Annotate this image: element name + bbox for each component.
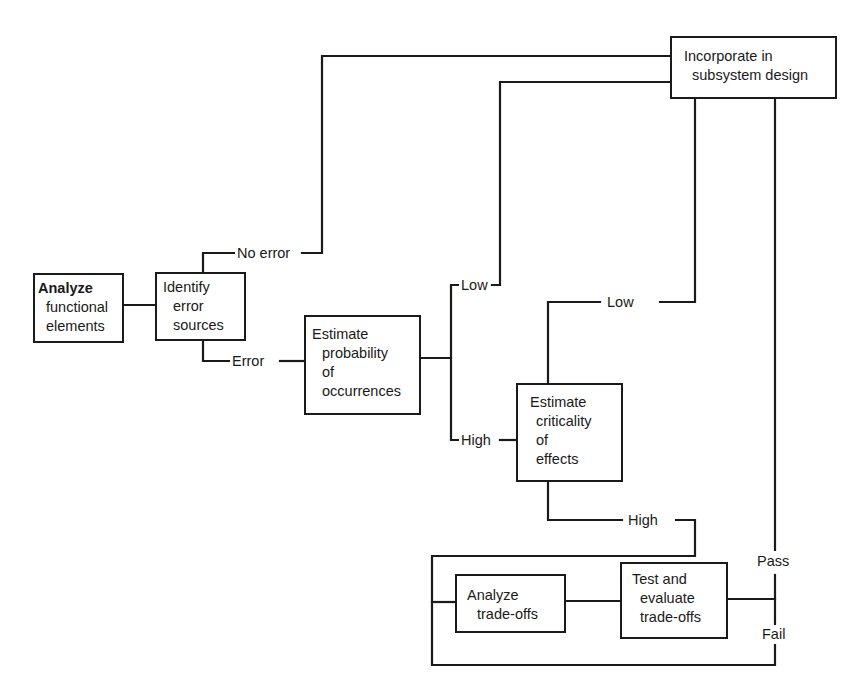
edge-label-criticality-high: High (626, 511, 660, 529)
node-text: Identify (163, 278, 238, 297)
edge-label-error: Error (230, 352, 266, 370)
edge-label-pass: Pass (755, 552, 791, 570)
node-analyze-functional-elements: Analyze functional elements (33, 273, 124, 343)
node-text: Analyze (467, 586, 558, 605)
node-text: of (530, 431, 615, 450)
edge-label-probability-high: High (459, 431, 493, 449)
node-text: probability (312, 344, 413, 363)
edge-label-criticality-low: Low (605, 293, 636, 311)
connector-lines (0, 0, 858, 696)
node-text: sources (163, 316, 238, 335)
node-incorporate-subsystem-design: Incorporate in subsystem design (670, 36, 837, 99)
node-text: criticality (530, 412, 615, 431)
node-text: functional (38, 298, 116, 317)
node-estimate-probability: Estimate probability of occurrences (304, 315, 421, 415)
node-text: elements (38, 317, 116, 336)
node-text: subsystem design (684, 66, 829, 85)
node-text: error (163, 297, 238, 316)
node-text: trade-offs (467, 605, 558, 624)
node-analyze-trade-offs: Analyze trade-offs (455, 574, 566, 633)
node-text: Test and (632, 570, 720, 589)
node-text: Estimate (312, 325, 413, 344)
node-text: of (312, 363, 413, 382)
node-test-evaluate-trade-offs: Test and evaluate trade-offs (620, 562, 728, 639)
node-text: trade-offs (632, 608, 720, 627)
node-identify-error-sources: Identify error sources (155, 272, 246, 341)
node-text: occurrences (312, 382, 413, 401)
node-text: Incorporate in (684, 47, 829, 66)
edge-label-no-error: No error (235, 244, 292, 262)
node-estimate-criticality: Estimate criticality of effects (516, 383, 623, 482)
node-text: evaluate (632, 589, 720, 608)
node-text: Analyze (38, 279, 116, 298)
edge-label-probability-low: Low (459, 276, 490, 294)
node-text: Estimate (530, 393, 615, 412)
edge-label-fail: Fail (760, 625, 787, 643)
node-text: effects (530, 450, 615, 469)
